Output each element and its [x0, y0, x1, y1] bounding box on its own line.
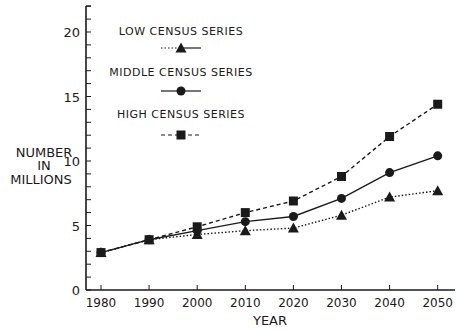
circle-marker-icon	[337, 194, 346, 203]
y-tick-label: 20	[63, 25, 80, 40]
square-marker-icon	[289, 196, 298, 205]
x-tick-label: 1990	[134, 296, 165, 310]
triangle-marker-icon	[432, 185, 443, 195]
square-marker-icon	[145, 235, 154, 244]
triangle-marker-icon	[384, 192, 395, 202]
circle-marker-icon	[433, 151, 442, 160]
legend: LOW CENSUS SERIES MIDDLE CENSUS SERIES H…	[109, 25, 252, 140]
legend-circle-icon	[177, 87, 186, 96]
axes: 0510152019801990200020102020203020402050	[63, 6, 455, 310]
y-tick-label: 0	[72, 283, 80, 298]
x-tick-label: 2020	[278, 296, 309, 310]
square-marker-icon	[97, 248, 106, 257]
square-marker-icon	[193, 222, 202, 231]
square-marker-icon	[433, 100, 442, 109]
x-tick-label: 1980	[86, 296, 117, 310]
x-tick-label: 2040	[374, 296, 405, 310]
circle-marker-icon	[385, 168, 394, 177]
legend-label-low: LOW CENSUS SERIES	[119, 25, 243, 38]
chart-canvas: 0510152019801990200020102020203020402050…	[0, 0, 459, 331]
triangle-marker-icon	[240, 225, 251, 235]
legend-label-high: HIGH CENSUS SERIES	[117, 108, 245, 121]
triangle-marker-icon	[336, 210, 347, 220]
y-axis-label-line-3: MILLIONS	[10, 172, 72, 187]
circle-marker-icon	[289, 212, 298, 221]
series-triangle	[96, 185, 444, 257]
x-tick-label: 2050	[422, 296, 453, 310]
square-marker-icon	[337, 172, 346, 181]
x-axis-label: YEAR	[252, 313, 287, 328]
series-square	[97, 100, 443, 257]
y-tick-label: 5	[72, 219, 80, 234]
y-tick-label: 15	[63, 90, 80, 105]
x-tick-label: 2030	[326, 296, 357, 310]
series-line	[101, 104, 438, 252]
x-tick-label: 2010	[230, 296, 261, 310]
legend-square-icon	[177, 131, 186, 140]
circle-marker-icon	[241, 217, 250, 226]
legend-label-middle: MIDDLE CENSUS SERIES	[109, 66, 252, 79]
triangle-marker-icon	[288, 223, 299, 233]
square-marker-icon	[385, 132, 394, 141]
series-layer	[96, 100, 444, 257]
census-projection-chart: 0510152019801990200020102020203020402050…	[0, 0, 459, 331]
legend-swatches	[161, 43, 201, 140]
x-tick-label: 2000	[182, 296, 213, 310]
y-axis-label-line-2: IN	[37, 158, 51, 173]
square-marker-icon	[241, 208, 250, 217]
